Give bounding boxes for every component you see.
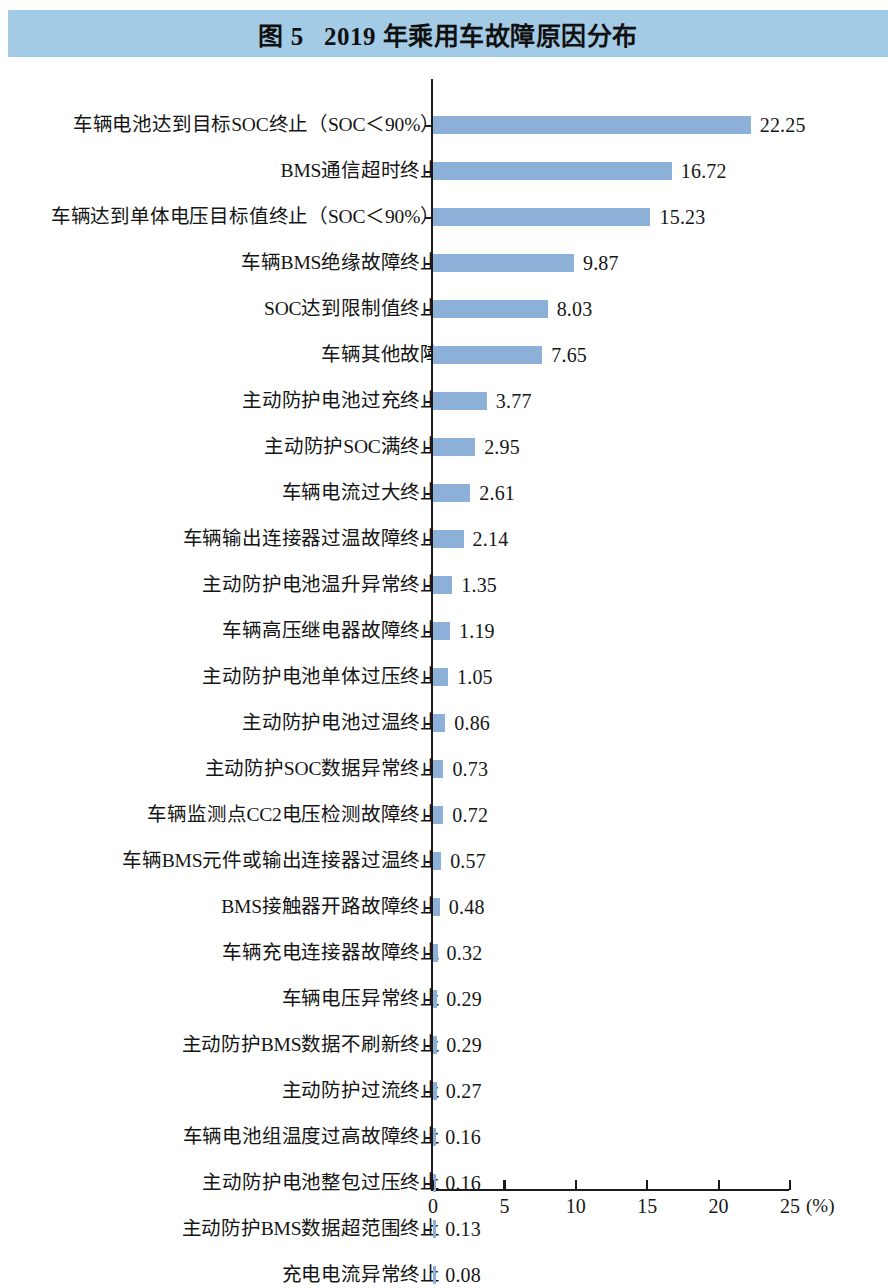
bar-row: 主动防护过流终止0.27 xyxy=(0,1068,888,1114)
value-axis-tick-label: 5 xyxy=(499,1196,509,1216)
bar-row: 主动防护BMS数据不刷新终止0.29 xyxy=(0,1022,888,1068)
bar xyxy=(433,714,445,732)
bar xyxy=(433,254,574,272)
bar-row: 主动防护SOC数据异常终止0.73 xyxy=(0,746,888,792)
category-axis-tick xyxy=(425,769,432,771)
bar-row: 车辆高压继电器故障终止1.19 xyxy=(0,608,888,654)
bar-value-label: 2.14 xyxy=(473,529,509,549)
bar-row: 车辆达到单体电压目标值终止（SOC＜90%）15.23 xyxy=(0,194,888,240)
bar-row: 车辆BMS元件或输出连接器过温终止0.57 xyxy=(0,838,888,884)
bar xyxy=(433,1220,436,1238)
bar xyxy=(433,392,487,410)
bar-row: 主动防护BMS数据超范围终止0.13 xyxy=(0,1206,888,1252)
bar xyxy=(433,1266,436,1284)
bar-value-label: 0.29 xyxy=(446,989,482,1009)
bar-row: 车辆电池组温度过高故障终止0.16 xyxy=(0,1114,888,1160)
bar-row: 车辆其他故障7.65 xyxy=(0,332,888,378)
bar-category-label: 主动防护SOC数据异常终止 xyxy=(10,759,440,779)
bar xyxy=(433,300,548,318)
bar-category-label: 车辆电压异常终止 xyxy=(10,989,440,1009)
category-axis-tick xyxy=(425,1045,432,1047)
value-axis-tick xyxy=(646,1180,648,1190)
bar xyxy=(433,668,448,686)
bar-category-label: 车辆电流过大终止 xyxy=(10,483,440,503)
value-axis-tick-label: 20 xyxy=(709,1196,729,1216)
bar-value-label: 0.16 xyxy=(445,1173,481,1193)
value-axis-tick-label: 15 xyxy=(637,1196,657,1216)
category-axis-tick xyxy=(425,447,432,449)
bar xyxy=(433,990,437,1008)
bar xyxy=(433,208,650,226)
bar-category-label: BMS通信超时终止 xyxy=(10,161,440,181)
bar-category-label: 主动防护电池单体过压终止 xyxy=(10,667,440,687)
bar-row: 车辆充电连接器故障终止0.32 xyxy=(0,930,888,976)
bar-row: 主动防护电池过温终止0.86 xyxy=(0,700,888,746)
value-axis-tick xyxy=(789,1180,791,1190)
bar-category-label: 主动防护电池过温终止 xyxy=(10,713,440,733)
bar-category-label: BMS接触器开路故障终止 xyxy=(10,897,440,917)
bar xyxy=(433,622,450,640)
bar-value-label: 16.72 xyxy=(681,161,727,181)
category-axis-tick xyxy=(425,815,432,817)
bar xyxy=(433,898,440,916)
category-axis-tick xyxy=(425,539,432,541)
bar-value-label: 15.23 xyxy=(659,207,705,227)
value-axis-tick xyxy=(718,1180,720,1190)
bar-value-label: 1.19 xyxy=(459,621,495,641)
bar-row: BMS通信超时终止16.72 xyxy=(0,148,888,194)
bar-row: SOC达到限制值终止8.03 xyxy=(0,286,888,332)
category-axis-tick xyxy=(425,861,432,863)
category-axis-tick xyxy=(425,309,432,311)
category-axis-tick xyxy=(425,263,432,265)
bar-category-label: 车辆充电连接器故障终止 xyxy=(10,943,440,963)
bar xyxy=(433,484,470,502)
bar-category-label: 车辆高压继电器故障终止 xyxy=(10,621,440,641)
bar-category-label: 主动防护过流终止 xyxy=(10,1081,440,1101)
value-axis-tick xyxy=(575,1180,577,1190)
bar-category-label: 车辆BMS绝缘故障终止 xyxy=(10,253,440,273)
bar-row: 主动防护电池整包过压终止0.16 xyxy=(0,1160,888,1206)
bar-value-label: 0.16 xyxy=(445,1127,481,1147)
category-axis-tick xyxy=(425,355,432,357)
bar xyxy=(433,944,438,962)
bar-row: BMS接触器开路故障终止0.48 xyxy=(0,884,888,930)
bar-category-label: 主动防护BMS数据超范围终止 xyxy=(10,1219,440,1239)
bar-row: 车辆电压异常终止0.29 xyxy=(0,976,888,1022)
bar-value-label: 0.27 xyxy=(446,1081,482,1101)
bar-value-label: 8.03 xyxy=(557,299,593,319)
value-axis-tick-label: 0 xyxy=(428,1196,438,1216)
bar xyxy=(433,530,464,548)
bar-category-label: 主动防护电池过充终止 xyxy=(10,391,440,411)
bar-row: 车辆监测点CC2电压检测故障终止0.72 xyxy=(0,792,888,838)
category-axis-tick xyxy=(425,723,432,725)
value-axis-tick-label: 10 xyxy=(566,1196,586,1216)
bar xyxy=(433,806,443,824)
bar-row: 车辆电流过大终止2.61 xyxy=(0,470,888,516)
figure-title: 图 5 2019 年乘用车故障原因分布 xyxy=(258,16,637,52)
category-axis-tick xyxy=(425,125,432,127)
category-axis-tick xyxy=(425,1183,432,1185)
value-axis-tick xyxy=(432,1180,434,1190)
bar-value-label: 22.25 xyxy=(760,115,806,135)
value-axis-tick-label: 25 xyxy=(780,1196,800,1216)
bar-category-label: 主动防护电池整包过压终止 xyxy=(10,1173,440,1193)
category-axis-tick xyxy=(425,953,432,955)
figure-title-band: 图 5 2019 年乘用车故障原因分布 xyxy=(8,10,888,57)
bar-category-label: 主动防护BMS数据不刷新终止 xyxy=(10,1035,440,1055)
category-axis-tick xyxy=(425,907,432,909)
bar-value-label: 0.32 xyxy=(447,943,483,963)
bar-category-label: 车辆监测点CC2电压检测故障终止 xyxy=(10,805,440,825)
category-axis-tick xyxy=(425,631,432,633)
bar-value-label: 1.35 xyxy=(461,575,497,595)
bar-value-label: 7.65 xyxy=(551,345,587,365)
bar-chart: 车辆电池达到目标SOC终止（SOC＜90%）22.25BMS通信超时终止16.7… xyxy=(0,57,888,1231)
category-axis-tick xyxy=(425,217,432,219)
category-axis-tick xyxy=(425,677,432,679)
bar-row: 主动防护电池过充终止3.77 xyxy=(0,378,888,424)
bar-value-label: 1.05 xyxy=(457,667,493,687)
bar xyxy=(433,1036,437,1054)
category-axis-tick xyxy=(425,493,432,495)
category-axis-tick xyxy=(425,585,432,587)
bar-row: 主动防护SOC满终止2.95 xyxy=(0,424,888,470)
category-axis-tick xyxy=(425,171,432,173)
